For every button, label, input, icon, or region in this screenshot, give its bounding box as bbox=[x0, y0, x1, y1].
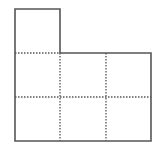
l-shaped-grid-diagram bbox=[0, 0, 160, 147]
shape-outline bbox=[15, 9, 151, 141]
dotted-grid-lines bbox=[15, 53, 151, 141]
